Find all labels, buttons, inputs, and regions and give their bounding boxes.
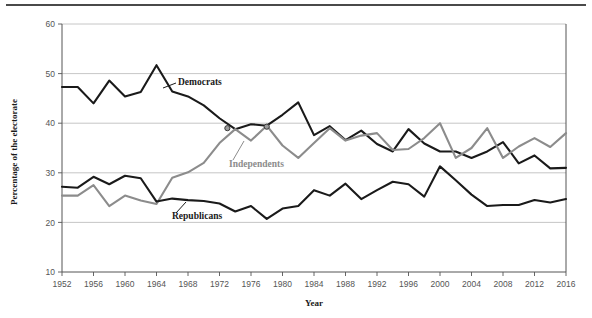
- x-tick-label: 1952: [53, 279, 72, 289]
- x-tick-label: 2016: [557, 279, 576, 289]
- y-axis-title: Percentage of the electorate: [9, 99, 19, 205]
- y-tick-label: 50: [46, 69, 56, 79]
- x-tick-label: 1996: [399, 279, 418, 289]
- x-tick-label: 1972: [210, 279, 229, 289]
- crossing-marker: [264, 124, 269, 129]
- series-lines-group: [62, 65, 566, 219]
- x-tick-label: 1976: [242, 279, 261, 289]
- series-line-republicans: [62, 166, 566, 219]
- x-axis-title: Year: [305, 298, 323, 308]
- x-tick-label: 1988: [336, 279, 355, 289]
- x-tick-label: 2000: [431, 279, 450, 289]
- series-label-republicans: Republicans: [172, 211, 222, 221]
- gridlines-group: [62, 24, 566, 222]
- y-tick-label: 40: [46, 118, 56, 128]
- y-tick-label: 10: [46, 267, 56, 277]
- x-tick-label: 1980: [273, 279, 292, 289]
- x-tick-label: 1968: [179, 279, 198, 289]
- series-label-independents: Independents: [229, 159, 284, 169]
- y-tick-label: 20: [46, 218, 56, 228]
- series-label-democrats: Democrats: [178, 77, 222, 87]
- x-tick-label: 1992: [368, 279, 387, 289]
- x-tick-label: 1960: [116, 279, 135, 289]
- chart-figure: 1952195619601964196819721976198019841988…: [0, 0, 592, 318]
- y-tick-label: 30: [46, 168, 56, 178]
- annotation-leader-independents: [233, 141, 244, 160]
- x-tick-label: 1964: [147, 279, 166, 289]
- x-tick-label: 2008: [494, 279, 513, 289]
- series-line-democrats: [62, 65, 566, 168]
- y-tick-label: 60: [46, 19, 56, 29]
- x-tick-label: 1956: [84, 279, 103, 289]
- axes-group: [62, 24, 566, 272]
- line-chart-svg: 1952195619601964196819721976198019841988…: [0, 0, 592, 318]
- x-tick-group: 1952195619601964196819721976198019841988…: [53, 272, 576, 289]
- x-tick-label: 2012: [525, 279, 544, 289]
- crossing-marker: [225, 126, 230, 131]
- x-tick-label: 2004: [462, 279, 481, 289]
- x-tick-label: 1984: [305, 279, 324, 289]
- y-tick-group: 102030405060: [46, 19, 62, 277]
